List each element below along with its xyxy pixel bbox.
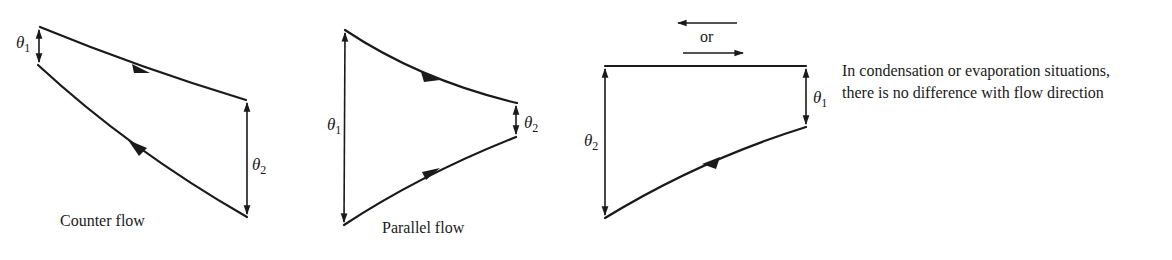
or-label: or	[700, 28, 714, 45]
cold-fluid-curve	[38, 65, 247, 217]
phase-change-diagram: or θ2 θ1	[584, 23, 827, 218]
note-line-1: In condensation or evaporation situation…	[842, 60, 1110, 82]
diagram-canvas: θ1 θ2 Counter flow θ1 θ2 Parallel flow o…	[0, 0, 1172, 260]
hot-fluid-curve	[40, 27, 246, 100]
cold-fluid-curve	[344, 137, 516, 225]
phase-change-note: In condensation or evaporation situation…	[842, 60, 1110, 104]
theta2-label: θ2	[252, 155, 266, 177]
parallel-flow-diagram: θ1 θ2 Parallel flow	[327, 30, 538, 236]
note-line-2: there is no difference with flow directi…	[842, 82, 1110, 104]
hot-fluid-curve	[345, 30, 517, 103]
theta1-label: θ1	[327, 115, 341, 137]
theta2-label: θ2	[584, 131, 598, 153]
counter-flow-diagram: θ1 θ2 Counter flow	[16, 27, 266, 229]
theta1-label: θ1	[16, 33, 30, 55]
theta1-dimension-arrow	[344, 33, 345, 222]
counter-flow-caption: Counter flow	[60, 212, 145, 229]
fluid-curve	[605, 127, 806, 218]
flow-arrow-left-icon	[128, 140, 147, 156]
theta1-label: θ1	[813, 88, 827, 110]
parallel-flow-caption: Parallel flow	[382, 219, 465, 236]
theta2-label: θ2	[524, 113, 538, 135]
flow-arrow-left-icon	[702, 157, 720, 169]
